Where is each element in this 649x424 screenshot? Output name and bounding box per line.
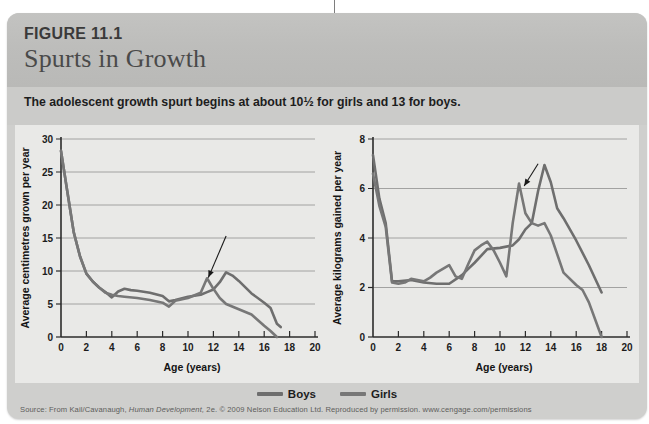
source-suffix: 2e. © 2009 Nelson Education Ltd. Reprodu… — [206, 405, 531, 414]
x-axis-tick-label: 0 — [370, 342, 376, 353]
series-line-girls — [373, 174, 602, 337]
x-axis-title: Age (years) — [475, 361, 532, 373]
series-line-boys — [61, 151, 281, 327]
page-gutter-mark — [334, 0, 335, 13]
x-axis-tick-label: 2 — [396, 342, 402, 353]
annotation-arrow-head — [524, 179, 530, 186]
y-axis-tick-label: 10 — [42, 266, 54, 277]
y-axis-tick-label: 4 — [359, 233, 365, 244]
series-line-girls — [61, 151, 277, 337]
x-axis-tick-label: 8 — [160, 342, 166, 353]
x-axis-tick-label: 18 — [284, 342, 296, 353]
figure-title: Spurts in Growth — [24, 44, 206, 74]
x-axis-tick-label: 8 — [472, 342, 478, 353]
source-credit-line: Source: From Kail/Cavanaugh, Human Devel… — [20, 405, 635, 414]
x-axis-tick-label: 6 — [446, 342, 452, 353]
x-axis-tick-label: 10 — [494, 342, 506, 353]
y-axis-tick-label: 6 — [359, 183, 365, 194]
x-axis-tick-label: 16 — [571, 342, 583, 353]
x-axis-tick-label: 4 — [421, 342, 427, 353]
chart-height-velocity: 05101520253002468101214161820Age (years)… — [15, 125, 327, 383]
figure-card: FIGURE 11.1 Spurts in Growth The adolesc… — [7, 13, 647, 419]
x-axis-tick-label: 12 — [520, 342, 532, 353]
source-work-title: Human Development, — [129, 405, 204, 414]
y-axis-tick-label: 0 — [47, 332, 53, 343]
figure-number: FIGURE 11.1 — [24, 25, 122, 43]
y-axis-tick-label: 25 — [42, 167, 54, 178]
x-axis-tick-label: 6 — [134, 342, 140, 353]
x-axis-tick-label: 16 — [259, 342, 271, 353]
legend-label-girls: Girls — [371, 388, 397, 400]
x-axis-tick-label: 4 — [109, 342, 115, 353]
legend-item-girls: Girls — [340, 388, 397, 400]
y-axis-title: Average kilograms gained per year — [331, 151, 343, 325]
legend-swatch-girls — [340, 392, 366, 396]
chart-svg-height: 05101520253002468101214161820Age (years)… — [15, 125, 327, 383]
figure-caption: The adolescent growth spurt begins at ab… — [24, 95, 624, 109]
page-top-margin — [0, 0, 649, 13]
x-axis-tick-label: 18 — [596, 342, 608, 353]
charts-panel: 05101520253002468101214161820Age (years)… — [15, 125, 639, 383]
x-axis-tick-label: 2 — [84, 342, 90, 353]
y-axis-tick-label: 0 — [359, 332, 365, 343]
series-line-boys — [373, 155, 602, 292]
x-axis-tick-label: 0 — [58, 342, 64, 353]
legend-label-boys: Boys — [288, 388, 316, 400]
y-axis-tick-label: 20 — [42, 200, 54, 211]
x-axis-tick-label: 20 — [309, 342, 321, 353]
chart-weight-velocity: 0246802468101214161820Age (years)Average… — [327, 125, 639, 383]
x-axis-tick-label: 12 — [208, 342, 220, 353]
chart-svg-weight: 0246802468101214161820Age (years)Average… — [327, 125, 639, 383]
legend-item-boys: Boys — [257, 388, 316, 400]
x-axis-tick-label: 20 — [621, 342, 633, 353]
y-axis-tick-label: 30 — [42, 134, 54, 145]
y-axis-tick-label: 15 — [42, 233, 54, 244]
x-axis-title: Age (years) — [163, 361, 220, 373]
x-axis-tick-label: 14 — [233, 342, 245, 353]
source-prefix: Source: From Kail/Cavanaugh, — [20, 405, 127, 414]
y-axis-tick-label: 5 — [47, 299, 53, 310]
y-axis-title: Average centimetres grown per year — [19, 147, 31, 328]
y-axis-tick-label: 2 — [359, 282, 365, 293]
x-axis-tick-label: 10 — [182, 342, 194, 353]
y-axis-tick-label: 8 — [359, 134, 365, 145]
legend-swatch-boys — [257, 392, 283, 396]
chart-legend: Boys Girls — [7, 385, 647, 403]
x-axis-tick-label: 14 — [545, 342, 557, 353]
